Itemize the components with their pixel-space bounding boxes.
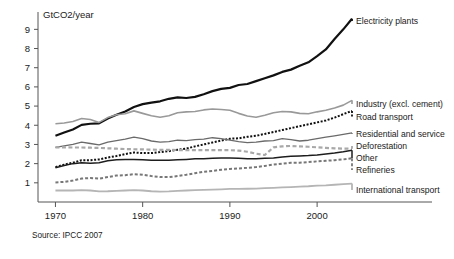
x-tick-label: 1990 [219,210,240,221]
y-tick-label: 2 [25,158,30,169]
x-tick-label: 2000 [307,210,328,221]
legend-label-industry-excl-cement[interactable]: Industry (excl. cement) [356,99,443,109]
y-tick-label: 3 [25,139,30,150]
y-tick-label: 9 [25,24,30,35]
x-tick-label: 1970 [45,210,66,221]
y-tick-label: 4 [25,120,30,131]
emissions-line-chart: 1234567891970198019902000 Electricity pl… [0,0,454,259]
y-tick-label: 7 [25,62,30,73]
y-tick-label: 8 [25,43,30,54]
y-axis-title: GtCO2/year [43,9,94,20]
x-tick-label: 1980 [132,210,153,221]
legend-label-road-transport[interactable]: Road transport [356,112,413,122]
legend-label-deforestation[interactable]: Deforestation [356,141,407,151]
y-tick-label: 6 [25,81,30,92]
legend-label-residential-and-service[interactable]: Residential and service [356,129,445,139]
legend-label-other[interactable]: Other [356,153,378,163]
legend-label-refineries[interactable]: Refineries [356,165,395,175]
legend-label-international-transport[interactable]: International transport [356,185,440,195]
y-tick-label: 5 [25,100,30,111]
source-note: Source: IPCC 2007 [32,231,103,240]
y-tick-label: 1 [25,177,30,188]
legend-label-electricity-plants[interactable]: Electricity plants [356,16,418,26]
